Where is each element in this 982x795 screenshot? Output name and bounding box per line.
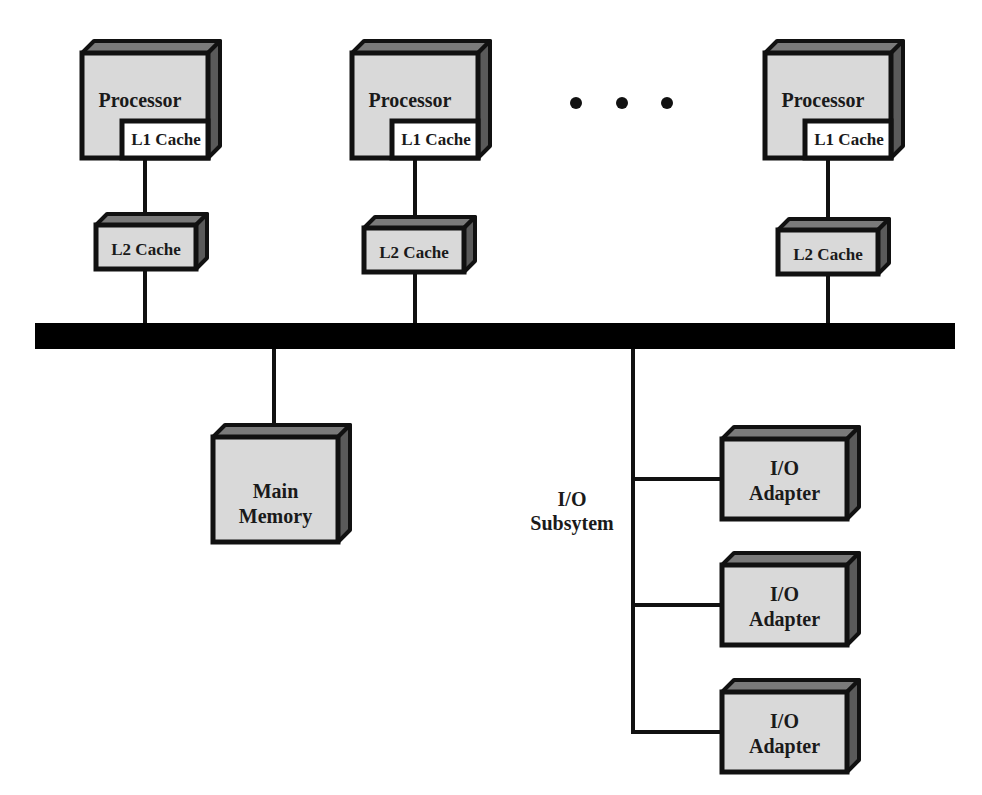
component-boxes: ProcessorL1 CacheL2 CacheProcessorL1 Cac… xyxy=(82,41,903,772)
system-bus xyxy=(35,323,955,349)
io-adapter-3: I/OAdapter xyxy=(722,680,859,772)
ellipsis-dot xyxy=(661,97,673,109)
io-adapter-label-line1: I/O xyxy=(770,457,799,479)
ellipsis-dot xyxy=(570,97,582,109)
processor-1: ProcessorL1 Cache xyxy=(82,41,220,158)
main-memory-label-line2: Memory xyxy=(239,505,312,528)
io-adapter-2: I/OAdapter xyxy=(722,553,859,645)
processor-label: Processor xyxy=(369,89,452,111)
processor-3: ProcessorL1 Cache xyxy=(765,41,903,158)
processor-2: ProcessorL1 Cache xyxy=(352,41,490,158)
l1-cache-label: L1 Cache xyxy=(814,130,884,149)
main-memory-label-line1: Main xyxy=(253,480,299,502)
io-adapter-label-line1: I/O xyxy=(770,583,799,605)
io-subsystem-label: I/O Subsytem xyxy=(522,487,622,535)
processor-label: Processor xyxy=(782,89,865,111)
box-front-face xyxy=(722,692,847,772)
multiprocessor-bus-diagram: ProcessorL1 CacheL2 CacheProcessorL1 Cac… xyxy=(0,0,982,795)
io-adapter-label-line2: Adapter xyxy=(749,735,820,758)
bus-bar xyxy=(35,323,955,349)
io-adapter-1: I/OAdapter xyxy=(722,427,859,519)
io-adapter-label-line2: Adapter xyxy=(749,482,820,505)
ellipsis-dot xyxy=(616,97,628,109)
l2-cache-2: L2 Cache xyxy=(364,217,475,272)
io-adapter-label-line1: I/O xyxy=(770,710,799,732)
io-subsystem-label-line2: Subsytem xyxy=(522,511,622,535)
io-adapter-label-line2: Adapter xyxy=(749,608,820,631)
processor-label: Processor xyxy=(99,89,182,111)
box-front-face xyxy=(722,439,847,519)
l2-cache-label: L2 Cache xyxy=(793,245,863,264)
io-subsystem-label-line1: I/O xyxy=(522,487,622,511)
l2-cache-label: L2 Cache xyxy=(379,243,449,262)
l1-cache-label: L1 Cache xyxy=(131,130,201,149)
box-front-face xyxy=(722,565,847,645)
l1-cache-label: L1 Cache xyxy=(401,130,471,149)
l2-cache-1: L2 Cache xyxy=(96,214,207,269)
l2-cache-3: L2 Cache xyxy=(778,219,889,274)
main-memory: MainMemory xyxy=(213,425,350,542)
l2-cache-label: L2 Cache xyxy=(111,240,181,259)
